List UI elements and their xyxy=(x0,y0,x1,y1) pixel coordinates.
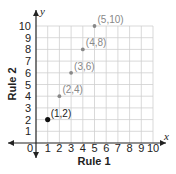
x-tick-label: 4 xyxy=(80,142,86,154)
y-tick-label: 3 xyxy=(25,102,31,114)
origin-label: 0 xyxy=(27,142,33,154)
y-tick-label: 6 xyxy=(25,67,31,79)
x-axis-arrow-left-icon xyxy=(8,140,14,146)
data-point-label: (3,6) xyxy=(74,61,95,72)
data-points: (1,2)(2,4)(3,6)(4,8)(5,10) xyxy=(45,14,124,122)
y-axis-label: Rule 2 xyxy=(6,67,18,100)
axes xyxy=(8,10,166,158)
data-point-label: (2,4) xyxy=(62,84,83,95)
y-axis-name: y xyxy=(39,5,45,17)
x-tick-label: 6 xyxy=(103,142,109,154)
data-point-label: (5,10) xyxy=(98,14,124,25)
y-tick-label: 7 xyxy=(25,55,31,67)
data-point-label: (1,2) xyxy=(51,108,72,119)
x-tick-label: 10 xyxy=(147,142,159,154)
x-tick-label: 9 xyxy=(138,142,144,154)
data-point-label: (4,8) xyxy=(86,37,107,48)
data-point xyxy=(45,117,50,122)
data-point xyxy=(69,71,73,75)
y-tick-label: 9 xyxy=(25,32,31,44)
x-tick-label: 2 xyxy=(56,142,62,154)
y-tick-labels: 12345678910 xyxy=(19,20,31,137)
data-point xyxy=(81,48,85,52)
y-tick-label: 10 xyxy=(19,20,31,32)
y-tick-label: 4 xyxy=(25,90,31,102)
y-axis-arrow-up-icon xyxy=(33,10,39,16)
y-tick-label: 1 xyxy=(25,125,31,137)
scatter-chart: 12345678910 12345678910 (1,2)(2,4)(3,6)(… xyxy=(0,0,176,174)
data-point xyxy=(58,94,62,98)
x-tick-label: 1 xyxy=(45,142,51,154)
y-tick-label: 8 xyxy=(25,43,31,55)
y-tick-label: 5 xyxy=(25,79,31,91)
x-axis-label: Rule 1 xyxy=(77,155,110,167)
x-tick-label: 3 xyxy=(68,142,74,154)
data-point xyxy=(93,24,97,28)
y-tick-label: 2 xyxy=(25,114,31,126)
x-tick-label: 5 xyxy=(91,142,97,154)
x-tick-label: 7 xyxy=(115,142,121,154)
x-axis-name: x xyxy=(163,130,169,142)
x-tick-label: 8 xyxy=(127,142,133,154)
y-axis-arrow-down-icon xyxy=(33,152,39,158)
x-tick-labels: 12345678910 xyxy=(45,142,159,154)
